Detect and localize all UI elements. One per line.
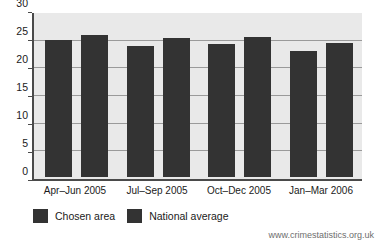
y-axis-tick-label: 30 bbox=[2, 0, 28, 8]
y-axis-tick bbox=[28, 180, 32, 181]
y-axis-tick-label: 25 bbox=[2, 26, 28, 37]
bar bbox=[208, 44, 235, 177]
plot-wrapper: 051015202530 bbox=[32, 13, 362, 181]
x-axis-tick-label: Oct–Dec 2005 bbox=[198, 185, 280, 197]
bar-chart-figure: 051015202530 Apr–Jun 2005Jul–Sep 2005Oct… bbox=[0, 0, 381, 246]
bar bbox=[45, 40, 72, 177]
bar bbox=[81, 35, 108, 177]
x-axis-tick-label: Jan–Mar 2006 bbox=[280, 185, 362, 197]
y-axis-tick bbox=[28, 40, 32, 41]
bar bbox=[244, 37, 271, 177]
y-axis-tick bbox=[28, 12, 32, 13]
legend-item: Chosen area bbox=[33, 209, 115, 223]
y-axis-tick-label: 5 bbox=[2, 138, 28, 149]
x-axis-labels: Apr–Jun 2005Jul–Sep 2005Oct–Dec 2005Jan–… bbox=[34, 185, 362, 197]
source-url-text: www.crimestatistics.org.uk bbox=[268, 230, 374, 240]
legend-label: Chosen area bbox=[55, 211, 115, 222]
bar-group bbox=[36, 13, 118, 177]
y-axis-tick bbox=[28, 96, 32, 97]
bar-group bbox=[118, 13, 200, 177]
chart-legend: Chosen areaNational average bbox=[33, 209, 229, 223]
plot-area bbox=[32, 13, 362, 181]
legend-item: National average bbox=[127, 209, 228, 223]
y-axis-tick-label: 0 bbox=[2, 166, 28, 177]
bar bbox=[127, 46, 154, 177]
y-axis-tick-label: 10 bbox=[2, 110, 28, 121]
bar-groups bbox=[36, 13, 362, 177]
bar bbox=[326, 43, 353, 177]
legend-swatch-icon bbox=[127, 209, 142, 223]
y-axis-tick-label: 20 bbox=[2, 54, 28, 65]
bar bbox=[163, 38, 190, 177]
x-axis-tick-label: Apr–Jun 2005 bbox=[34, 185, 116, 197]
bar-group bbox=[199, 13, 281, 177]
bar bbox=[290, 51, 317, 177]
y-axis-tick bbox=[28, 152, 32, 153]
legend-label: National average bbox=[149, 211, 228, 222]
x-axis-tick-label: Jul–Sep 2005 bbox=[116, 185, 198, 197]
y-axis-tick bbox=[28, 124, 32, 125]
bar-group bbox=[281, 13, 363, 177]
legend-swatch-icon bbox=[33, 209, 48, 223]
y-axis-tick bbox=[28, 68, 32, 69]
y-axis-tick-label: 15 bbox=[2, 82, 28, 93]
